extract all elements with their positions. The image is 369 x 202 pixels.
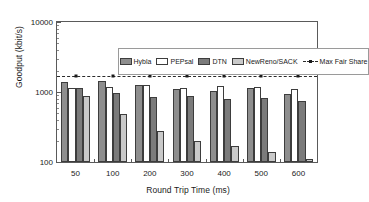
bar-dtn-50	[76, 88, 83, 162]
legend-label-max-fair-share: Max Fair Share	[320, 58, 368, 65]
x-tick-mark	[206, 159, 207, 162]
bar-dtn-400	[224, 99, 231, 162]
bar-pepsal-300	[180, 88, 187, 162]
x-tick-mark	[243, 159, 244, 162]
x-tick-mark	[317, 159, 318, 162]
bar-hybla-500	[247, 88, 254, 162]
bar-pepsal-200	[143, 85, 150, 162]
y-tick-minor	[57, 103, 59, 104]
bar-hybla-300	[173, 89, 180, 162]
legend-item-newreno-sack: NewReno/SACK	[232, 58, 298, 65]
legend-swatch-newreno-sack	[232, 58, 244, 65]
x-tick-label-600: 600	[292, 169, 305, 178]
legend-item-hybla: Hybla	[120, 58, 152, 65]
bar-pepsal-100	[106, 87, 113, 162]
plot-area: 100100010000 50100200300400500600 Hybla …	[56, 21, 318, 163]
y-tick-minor	[57, 113, 59, 114]
x-tick-label-100: 100	[106, 169, 119, 178]
bar-newreno-sack-600	[306, 159, 313, 162]
bar-newreno-sack-200	[157, 131, 164, 162]
bar-dtn-200	[150, 97, 157, 162]
legend-dashed-line-icon	[303, 58, 318, 65]
y-tick-label-100: 100	[40, 158, 53, 167]
legend-swatch-dtn	[198, 58, 210, 65]
x-axis-label: Round Trip Time (ms)	[56, 185, 320, 195]
legend-label-dtn: DTN	[212, 58, 226, 65]
bar-pepsal-500	[254, 87, 261, 162]
bar-pepsal-400	[217, 86, 224, 162]
y-tick-minor	[57, 38, 59, 39]
bar-hybla-200	[135, 85, 142, 162]
y-axis-label: Goodput (kbit/s)	[14, 2, 24, 112]
x-tick-mark	[168, 159, 169, 162]
legend-item-max-fair-share: Max Fair Share	[303, 58, 368, 65]
max-fair-share-marker-100	[111, 74, 114, 77]
y-tick-minor	[57, 120, 59, 121]
legend-label-hybla: Hybla	[134, 58, 152, 65]
y-tick-minor	[57, 43, 59, 44]
y-tick-label-10000: 10000	[31, 18, 53, 27]
y-tick-minor	[57, 33, 59, 34]
legend-swatch-pepsal	[156, 58, 168, 65]
y-tick-minor	[57, 99, 59, 100]
x-tick-label-200: 200	[143, 169, 156, 178]
x-tick-label-50: 50	[71, 169, 80, 178]
legend-item-dtn: DTN	[198, 58, 226, 65]
y-tick-minor	[57, 25, 59, 26]
y-tick-mark-10000	[57, 22, 61, 23]
max-fair-share-marker-50	[74, 74, 77, 77]
y-tick-minor	[57, 29, 59, 30]
y-tick-mark-100	[57, 162, 61, 163]
bar-newreno-sack-50	[83, 96, 90, 162]
y-tick-minor	[57, 59, 59, 60]
bar-pepsal-600	[291, 89, 298, 162]
y-tick-minor	[57, 141, 59, 142]
bar-hybla-100	[98, 81, 105, 162]
legend-item-pepsal: PEPsal	[156, 58, 193, 65]
y-tick-minor	[57, 71, 59, 72]
legend-label-newreno-sack: NewReno/SACK	[246, 58, 298, 65]
bar-hybla-50	[61, 82, 68, 162]
y-tick-label-1000: 1000	[35, 88, 53, 97]
x-tick-mark	[94, 159, 95, 162]
bar-newreno-sack-100	[120, 114, 127, 162]
bar-pepsal-50	[68, 88, 75, 162]
y-tick-minor	[57, 108, 59, 109]
bar-dtn-100	[113, 93, 120, 162]
y-tick-minor	[57, 129, 59, 130]
legend-swatch-hybla	[120, 58, 132, 65]
bar-hybla-400	[210, 91, 217, 162]
x-tick-label-400: 400	[217, 169, 230, 178]
bar-newreno-sack-300	[194, 141, 201, 162]
x-tick-label-500: 500	[255, 169, 268, 178]
y-tick-minor	[57, 95, 59, 96]
y-tick-minor	[57, 50, 59, 51]
bar-newreno-sack-400	[231, 146, 238, 162]
bar-dtn-600	[298, 101, 305, 162]
x-tick-label-300: 300	[180, 169, 193, 178]
bar-dtn-300	[187, 96, 194, 162]
bar-dtn-500	[261, 98, 268, 162]
chart-legend: Hybla PEPsal DTN NewReno/SACK Max Fair S…	[118, 48, 369, 75]
bar-hybla-600	[284, 94, 291, 162]
legend-label-pepsal: PEPsal	[170, 58, 193, 65]
x-tick-mark	[280, 159, 281, 162]
bar-newreno-sack-500	[268, 152, 275, 162]
x-tick-mark	[131, 159, 132, 162]
